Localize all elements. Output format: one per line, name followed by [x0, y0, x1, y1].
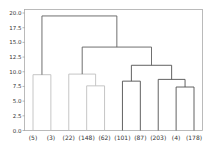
dendrogram-link [69, 74, 96, 130]
y-tick-label: 10.0 [9, 69, 22, 75]
y-tick-label: 7.5 [13, 83, 22, 89]
x-axis-leaf-labels: (5)(3)(22)(148)(62)(101)(87)(203)(4)(178… [29, 134, 202, 141]
dendrogram-link [42, 16, 117, 75]
y-tick-label: 2.5 [13, 113, 22, 119]
y-tick-label: 17.5 [9, 25, 22, 31]
leaf-label: (5) [29, 134, 38, 141]
dendrogram-link [131, 65, 171, 81]
leaf-label: (4) [172, 134, 181, 141]
y-tick-label: 12.5 [9, 54, 22, 60]
dendrogram-chart: 0.02.55.07.510.012.515.017.520.0 (5)(3)(… [0, 0, 214, 150]
dendrogram-link [176, 87, 194, 130]
y-tick-label: 5.0 [13, 98, 22, 104]
dendrogram-links [33, 16, 194, 131]
y-axis: 0.02.55.07.510.012.515.017.520.0 [9, 10, 24, 134]
y-tick-label: 0.0 [13, 128, 22, 134]
leaf-label: (178) [186, 134, 202, 141]
leaf-label: (203) [150, 134, 166, 141]
y-tick-label: 20.0 [9, 10, 22, 16]
leaf-label: (101) [114, 134, 130, 141]
leaf-label: (3) [47, 134, 56, 141]
dendrogram-link [33, 75, 51, 131]
dendrogram-link [122, 81, 140, 130]
y-tick-label: 15.0 [9, 39, 22, 45]
leaf-label: (87) [134, 134, 146, 141]
dendrogram-link [82, 47, 151, 74]
leaf-label: (62) [98, 134, 110, 141]
leaf-label: (22) [63, 134, 75, 141]
leaf-label: (148) [79, 134, 95, 141]
dendrogram-link [87, 86, 105, 131]
